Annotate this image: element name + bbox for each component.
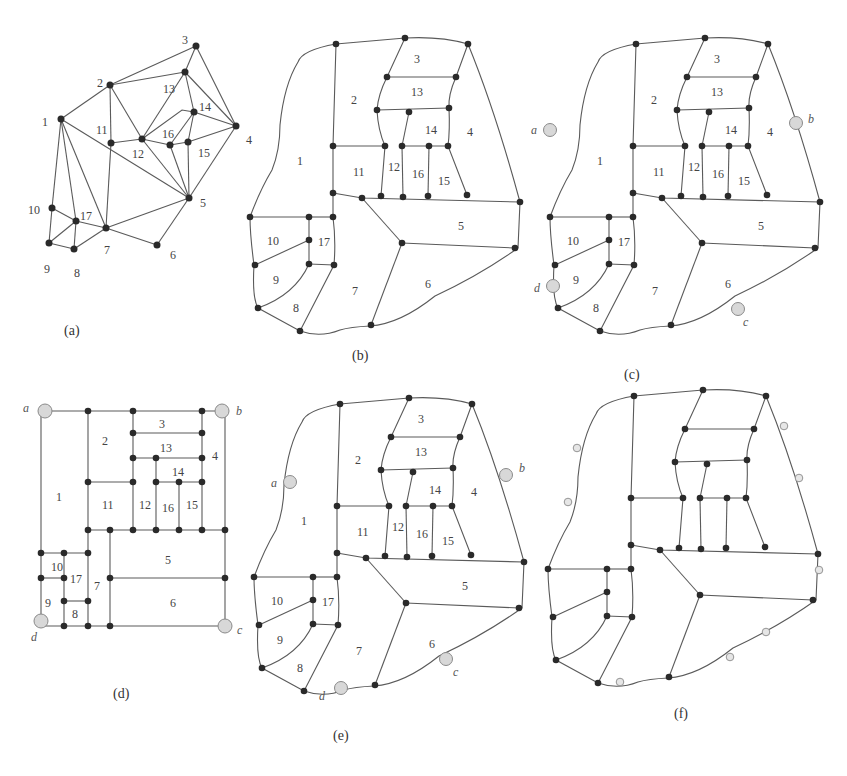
corner-point-b — [790, 117, 803, 130]
region-label-5: 5 — [462, 579, 468, 593]
region-label-8: 8 — [293, 301, 299, 315]
region-label-1: 1 — [301, 514, 307, 528]
region-label-9: 9 — [277, 633, 283, 647]
corner-point-a — [38, 404, 52, 418]
corner-label-d: d — [319, 689, 326, 703]
region-label-5: 5 — [458, 219, 464, 233]
corner-label-b: b — [519, 461, 525, 475]
region-label-9: 9 — [273, 273, 279, 287]
region-label-1: 1 — [56, 490, 62, 504]
vertex-label-5: 5 — [200, 196, 206, 210]
corner-point-b — [500, 469, 513, 482]
vertex-label-1: 1 — [42, 115, 48, 129]
region-label-4: 4 — [471, 485, 477, 499]
corner-point-c — [218, 619, 232, 633]
region-label-16: 16 — [412, 167, 424, 181]
corner-point-a — [284, 476, 297, 489]
vertex-label-14: 14 — [199, 100, 211, 114]
vertex-label-11: 11 — [96, 123, 108, 137]
region-label-14: 14 — [172, 465, 184, 479]
region-label-6: 6 — [725, 277, 731, 291]
region-label-9: 9 — [573, 273, 579, 287]
region-label-13: 13 — [711, 85, 723, 99]
region-label-5: 5 — [758, 219, 764, 233]
panel-c-layout: a b c d 1 2 3 4 5 6 7 8 9 10 11 12 13 14… — [531, 35, 823, 383]
corner-label-c: c — [453, 665, 459, 679]
corner-point-a — [544, 124, 557, 137]
panel-e-layout: a b c d 1 2 3 4 5 6 7 8 9 10 11 12 13 14… — [251, 395, 528, 744]
vertex-label-8: 8 — [74, 266, 80, 280]
corner-label-b: b — [808, 112, 814, 126]
panel-caption-d: (d) — [113, 686, 130, 702]
region-labels: 1 2 3 4 5 6 7 8 9 10 11 12 13 14 15 16 1… — [567, 52, 773, 315]
corner-point-d — [34, 614, 48, 628]
panel-caption-e: (e) — [333, 728, 349, 744]
region-label-6: 6 — [429, 637, 435, 651]
region-label-7: 7 — [652, 284, 658, 298]
region-label-12: 12 — [139, 498, 151, 512]
panel-f-layout: (f) — [545, 387, 823, 722]
region-label-3: 3 — [418, 412, 424, 426]
region-label-16: 16 — [416, 527, 428, 541]
corner-label-d: d — [31, 630, 38, 644]
corner-label-a: a — [531, 123, 537, 137]
vertex-label-10: 10 — [28, 203, 40, 217]
panel-caption-c: (c) — [624, 367, 640, 383]
region-label-8: 8 — [72, 607, 78, 621]
region-label-2: 2 — [651, 93, 657, 107]
region-label-14: 14 — [725, 123, 737, 137]
region-label-9: 9 — [45, 596, 51, 610]
region-label-13: 13 — [411, 85, 423, 99]
panel-caption-a: (a) — [64, 323, 80, 339]
region-label-12: 12 — [392, 520, 404, 534]
region-label-14: 14 — [425, 123, 437, 137]
vertex-label-17: 17 — [80, 209, 92, 223]
region-label-3: 3 — [414, 52, 420, 66]
corner-point-c — [440, 653, 453, 666]
panel-b-layout: 1 2 3 4 5 6 7 8 9 10 11 12 13 14 15 16 1… — [247, 35, 524, 364]
region-label-3: 3 — [714, 52, 720, 66]
region-label-15: 15 — [186, 498, 198, 512]
region-label-4: 4 — [467, 125, 473, 139]
region-label-10: 10 — [51, 560, 63, 574]
corner-label-a: a — [271, 476, 277, 490]
region-label-17: 17 — [70, 572, 82, 586]
corner-label-b: b — [236, 404, 242, 418]
vertex-label-13: 13 — [163, 82, 175, 96]
region-label-10: 10 — [267, 234, 279, 248]
vertex-label-4: 4 — [246, 133, 252, 147]
region-label-4: 4 — [212, 449, 218, 463]
corner-point-d — [547, 280, 560, 293]
region-label-2: 2 — [102, 434, 108, 448]
region-label-15: 15 — [442, 534, 454, 548]
region-label-6: 6 — [425, 277, 431, 291]
figure-canvas: 1 2 3 4 5 6 7 8 9 10 11 12 13 14 15 16 1… — [0, 0, 847, 776]
corner-point-b — [215, 404, 229, 418]
panel-a-graph: 1 2 3 4 5 6 7 8 9 10 11 12 13 14 15 16 1… — [28, 33, 252, 339]
region-label-5: 5 — [165, 553, 171, 567]
region-label-10: 10 — [271, 594, 283, 608]
region-label-17: 17 — [318, 235, 330, 249]
region-label-11: 11 — [102, 498, 114, 512]
region-label-7: 7 — [356, 644, 362, 658]
vertex-label-2: 2 — [97, 76, 103, 90]
region-label-15: 15 — [438, 174, 450, 188]
region-labels: 1 2 3 4 5 6 7 8 9 10 11 12 13 14 15 16 1… — [45, 417, 218, 621]
panel-caption-f: (f) — [674, 706, 688, 722]
vertex-label-9: 9 — [44, 262, 50, 276]
region-label-8: 8 — [297, 661, 303, 675]
region-label-11: 11 — [357, 525, 369, 539]
region-label-12: 12 — [688, 160, 700, 174]
region-label-8: 8 — [593, 301, 599, 315]
region-label-6: 6 — [170, 596, 176, 610]
vertex-label-12: 12 — [132, 147, 144, 161]
region-label-15: 15 — [738, 174, 750, 188]
panel-d-floorplan: a b c d 1 2 3 4 5 6 7 8 9 10 11 12 13 14… — [23, 401, 243, 702]
region-label-11: 11 — [353, 165, 365, 179]
region-label-16: 16 — [162, 501, 174, 515]
region-labels: 1 2 3 4 5 6 7 8 9 10 11 12 13 14 15 16 1… — [271, 412, 477, 675]
region-label-14: 14 — [429, 483, 441, 497]
corner-label-a: a — [23, 401, 29, 415]
region-label-1: 1 — [597, 154, 603, 168]
region-label-7: 7 — [94, 579, 100, 593]
